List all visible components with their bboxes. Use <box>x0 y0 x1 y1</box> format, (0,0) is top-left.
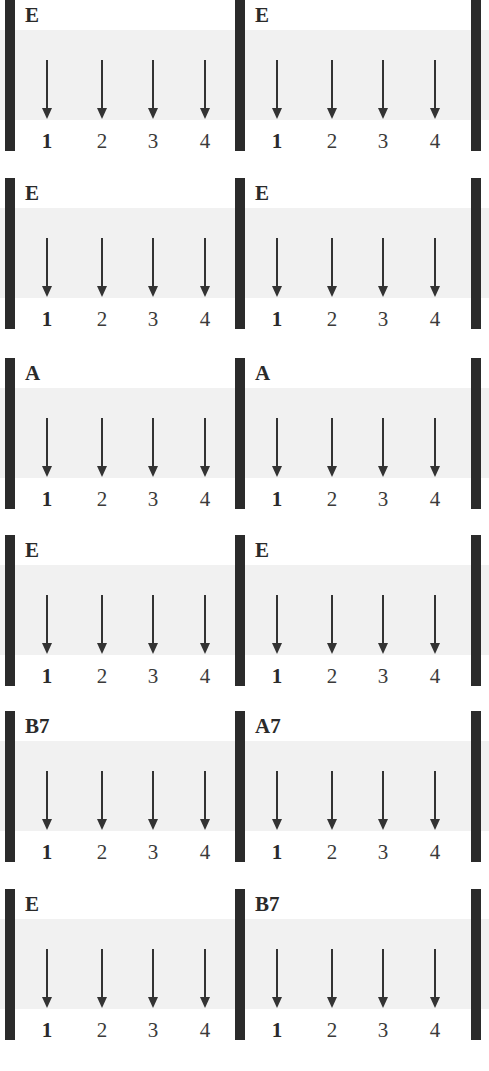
beat-number: 1 <box>37 308 57 330</box>
beat-number: 2 <box>322 488 342 510</box>
beat: 2 <box>92 711 112 863</box>
beat-number: 3 <box>143 1019 163 1041</box>
beat: 3 <box>373 711 393 863</box>
beat-number: 4 <box>195 1019 215 1041</box>
beat: 3 <box>143 358 163 510</box>
beat: 4 <box>425 178 445 330</box>
beat-number: 4 <box>425 841 445 863</box>
beat-number: 3 <box>143 130 163 152</box>
beat: 1 <box>37 711 57 863</box>
barline <box>471 0 481 151</box>
beat-number: 3 <box>373 841 393 863</box>
chart-row: E1234E1234 <box>0 535 489 687</box>
beat: 3 <box>143 889 163 1041</box>
barline <box>5 711 15 862</box>
beat-number: 1 <box>37 488 57 510</box>
beat-number: 2 <box>92 665 112 687</box>
beat: 4 <box>195 358 215 510</box>
barline <box>471 178 481 329</box>
beat-number: 1 <box>37 1019 57 1041</box>
beat: 1 <box>37 358 57 510</box>
beat: 3 <box>143 0 163 152</box>
chart-row: E1234E1234 <box>0 0 489 152</box>
chart-row: B71234A71234 <box>0 711 489 863</box>
beat: 1 <box>267 0 287 152</box>
beat-number: 3 <box>373 488 393 510</box>
beat: 1 <box>37 535 57 687</box>
beat: 1 <box>37 178 57 330</box>
measure: E1234 <box>15 889 240 1041</box>
measure: E1234 <box>15 0 240 152</box>
beat: 2 <box>92 889 112 1041</box>
beat-number: 3 <box>143 841 163 863</box>
chart-row: E1234E1234 <box>0 178 489 330</box>
beat: 3 <box>373 535 393 687</box>
measure: E1234 <box>245 178 470 330</box>
beat: 4 <box>195 711 215 863</box>
measure: E1234 <box>15 178 240 330</box>
beat: 1 <box>37 0 57 152</box>
measure: E1234 <box>15 535 240 687</box>
beat-number: 3 <box>373 130 393 152</box>
barline <box>5 358 15 509</box>
beat-number: 3 <box>143 308 163 330</box>
beat-number: 2 <box>322 1019 342 1041</box>
beat-number: 1 <box>267 308 287 330</box>
beat-number: 2 <box>322 665 342 687</box>
beat-number: 3 <box>373 1019 393 1041</box>
barline <box>5 0 15 151</box>
beat-number: 1 <box>267 665 287 687</box>
beat-number: 2 <box>92 841 112 863</box>
beat-number: 4 <box>195 665 215 687</box>
beat-number: 4 <box>425 130 445 152</box>
beat: 3 <box>373 358 393 510</box>
beat: 2 <box>322 889 342 1041</box>
barline <box>471 535 481 686</box>
barline <box>5 535 15 686</box>
beat: 1 <box>267 535 287 687</box>
beat: 3 <box>143 178 163 330</box>
beat: 4 <box>425 535 445 687</box>
beat: 3 <box>373 178 393 330</box>
beat-number: 4 <box>425 665 445 687</box>
beat-number: 3 <box>143 665 163 687</box>
beat: 2 <box>322 358 342 510</box>
beat: 3 <box>143 711 163 863</box>
beat: 4 <box>195 535 215 687</box>
beat: 4 <box>425 711 445 863</box>
measure: A71234 <box>245 711 470 863</box>
beat: 2 <box>322 0 342 152</box>
beat-number: 3 <box>143 488 163 510</box>
measure: A1234 <box>245 358 470 510</box>
measure: B71234 <box>15 711 240 863</box>
beat-number: 1 <box>267 841 287 863</box>
beat: 2 <box>92 535 112 687</box>
beat: 1 <box>267 178 287 330</box>
beat-number: 3 <box>373 308 393 330</box>
beat: 1 <box>267 358 287 510</box>
beat-number: 4 <box>195 488 215 510</box>
beat-number: 4 <box>425 488 445 510</box>
beat: 4 <box>195 178 215 330</box>
chart-row: E1234B71234 <box>0 889 489 1041</box>
beat-number: 4 <box>195 841 215 863</box>
beat-number: 4 <box>425 1019 445 1041</box>
beat: 3 <box>373 0 393 152</box>
measure: B71234 <box>245 889 470 1041</box>
barline <box>471 711 481 862</box>
beat-number: 2 <box>92 488 112 510</box>
beat: 2 <box>92 178 112 330</box>
beat: 1 <box>37 889 57 1041</box>
beat: 4 <box>425 889 445 1041</box>
beat-number: 1 <box>37 841 57 863</box>
beat-number: 1 <box>267 130 287 152</box>
beat: 2 <box>92 0 112 152</box>
beat-number: 1 <box>37 665 57 687</box>
beat: 4 <box>195 889 215 1041</box>
beat-number: 1 <box>267 488 287 510</box>
beat-number: 2 <box>322 308 342 330</box>
measure: E1234 <box>245 535 470 687</box>
beat-number: 4 <box>195 130 215 152</box>
beat-number: 2 <box>322 130 342 152</box>
beat: 1 <box>267 711 287 863</box>
